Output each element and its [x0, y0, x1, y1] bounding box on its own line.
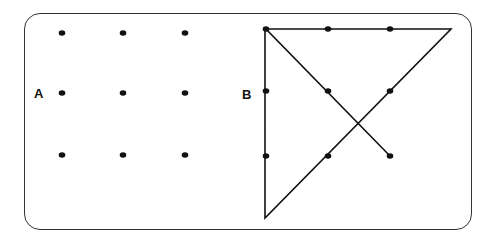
dot-puzzle-diagram [0, 0, 494, 244]
dot [325, 26, 332, 32]
dot [120, 152, 127, 158]
dot [59, 30, 66, 36]
dot [59, 152, 66, 158]
dot [182, 90, 189, 96]
dot [387, 153, 394, 159]
dot [387, 26, 394, 32]
dot [263, 88, 270, 94]
dot [182, 152, 189, 158]
dot [325, 153, 332, 159]
dot [387, 88, 394, 94]
four-line-solution-b [265, 29, 451, 218]
nine-dot-grid-a [59, 30, 189, 158]
dot [120, 30, 127, 36]
dot [182, 30, 189, 36]
dot [263, 153, 270, 159]
dot [263, 26, 270, 32]
dot [59, 90, 66, 96]
solution-line [265, 29, 451, 218]
dot [120, 90, 127, 96]
dot [325, 88, 332, 94]
